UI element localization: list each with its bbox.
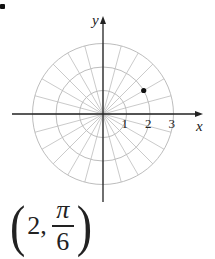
plotted-point bbox=[141, 88, 146, 93]
polar-grid-diagram bbox=[0, 0, 215, 210]
theta-fraction: π 6 bbox=[52, 197, 74, 255]
close-paren: ) bbox=[77, 197, 92, 255]
y-axis-label: y bbox=[92, 12, 99, 29]
open-paren: ( bbox=[10, 197, 25, 255]
x-tick-3: 3 bbox=[169, 116, 176, 132]
x-tick-2: 2 bbox=[145, 116, 152, 132]
x-axis-label: x bbox=[196, 118, 203, 135]
theta-denominator: 6 bbox=[56, 227, 69, 255]
theta-numerator: π bbox=[56, 197, 69, 225]
r-value: 2, bbox=[27, 211, 47, 241]
x-tick-1: 1 bbox=[122, 116, 129, 132]
polar-coordinate-caption: ( 2, π 6 ) bbox=[10, 196, 92, 256]
